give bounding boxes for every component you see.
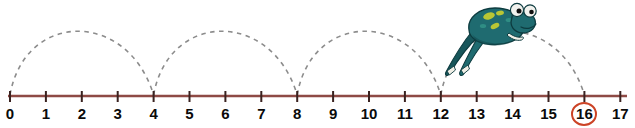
tick-label-9: 9 <box>329 106 337 121</box>
jumping-frog-illustration <box>443 0 543 78</box>
tick-label-14: 14 <box>504 106 521 121</box>
frog-pupil-right <box>529 10 534 15</box>
tick-label-5: 5 <box>185 106 193 121</box>
number-line-diagram: 0 1 2 3 4 5 6 7 8 9 10 11 12 13 14 15 16… <box>0 0 635 128</box>
tick-label-13: 13 <box>468 106 485 121</box>
tick-label-2: 2 <box>78 106 86 121</box>
tick-label-3: 3 <box>114 106 122 121</box>
tick-label-1: 1 <box>42 106 50 121</box>
tick-label-7: 7 <box>257 106 265 121</box>
tick-label-4: 4 <box>149 106 157 121</box>
frog-pupil-left <box>517 9 522 14</box>
tick-label-15: 15 <box>540 106 557 121</box>
tick-label-16: 16 <box>576 106 593 121</box>
tick-label-11: 11 <box>397 106 413 121</box>
tick-label-6: 6 <box>221 106 229 121</box>
jump-arc-4-to-8 <box>154 31 298 95</box>
jump-arc-8-to-12 <box>297 31 441 95</box>
frog-spot <box>480 24 486 28</box>
jump-arc-0-to-4 <box>10 31 154 95</box>
tick-label-10: 10 <box>361 106 378 121</box>
frog-figure <box>446 3 537 75</box>
tick-label-17: 17 <box>612 106 629 121</box>
tick-label-8: 8 <box>293 106 301 121</box>
tick-label-0: 0 <box>6 106 14 121</box>
tick-label-12: 12 <box>432 106 449 121</box>
